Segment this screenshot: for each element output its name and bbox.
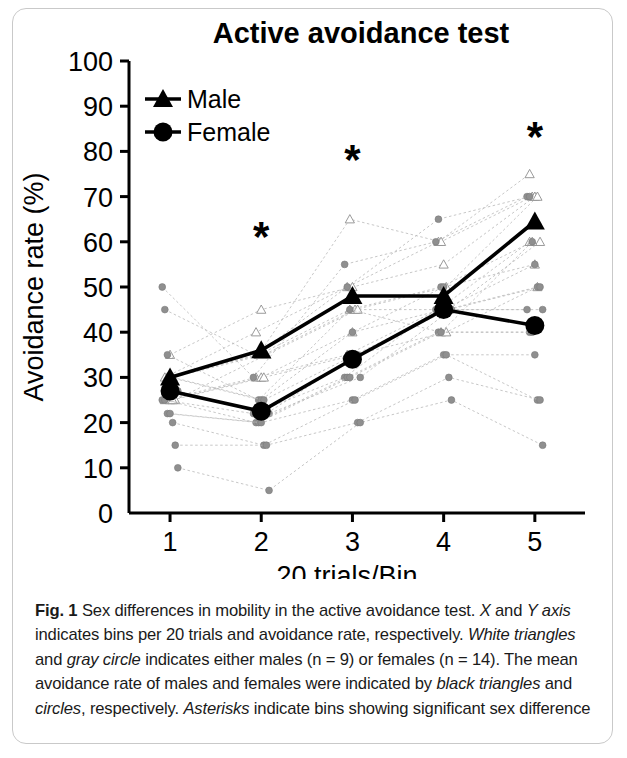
caption-text: , respectively. (81, 699, 183, 718)
x-axis-tick-label: 4 (436, 527, 451, 557)
individual-point-female (263, 442, 270, 449)
individual-point-male (535, 237, 544, 245)
y-axis-tick-label: 0 (98, 499, 113, 529)
individual-point-male (251, 328, 260, 336)
significance-asterisk-bin2: * (253, 213, 270, 260)
chart-title: Active avoidance test (213, 17, 510, 49)
mean-marker-female (525, 316, 544, 335)
legend-label-male: Male (187, 85, 241, 113)
individual-point-female (266, 487, 273, 494)
caption-emphasis: gray circle (67, 650, 141, 669)
y-axis-tick-label: 30 (83, 363, 113, 393)
figure-card: Active avoidance test0102030405060708090… (12, 8, 613, 744)
caption-emphasis: White triangles (468, 625, 576, 644)
individual-point-female (346, 306, 353, 313)
y-axis-tick-label: 60 (83, 228, 113, 258)
x-axis-label: 20 trials/Bin (276, 561, 417, 579)
chart-area: Active avoidance test0102030405060708090… (13, 9, 614, 579)
x-axis-tick-label: 5 (527, 527, 542, 557)
y-axis-tick-label: 100 (68, 47, 113, 77)
caption-text: Sex differences in mobility in the activ… (77, 601, 479, 620)
individual-point-female (250, 374, 257, 381)
individual-point-female (349, 329, 356, 336)
significance-asterisk-bin5: * (527, 113, 544, 160)
individual-point-female (172, 442, 179, 449)
individual-point-female (531, 351, 538, 358)
x-axis-tick-label: 2 (254, 527, 269, 557)
individual-point-female (448, 397, 455, 404)
legend-label-female: Female (187, 118, 270, 146)
x-axis-tick-label: 3 (345, 527, 360, 557)
significance-asterisk-bin3: * (344, 136, 361, 183)
individual-point-female (524, 306, 531, 313)
individual-point-male (525, 169, 534, 177)
caption-emphasis: circles (35, 699, 81, 718)
y-axis-tick-label: 10 (83, 454, 113, 484)
caption-emphasis: black triangles (436, 674, 540, 693)
individual-point-female (539, 442, 546, 449)
y-axis-tick-label: 90 (83, 92, 113, 122)
mean-series-layer (160, 211, 545, 420)
individual-point-female (167, 410, 174, 417)
individual-point-female (357, 419, 364, 426)
individual-point-female (159, 284, 166, 291)
individual-point-female (352, 397, 359, 404)
figure-caption: Fig. 1 Sex differences in mobility in th… (35, 599, 595, 721)
caption-figure-label: Fig. 1 (35, 601, 77, 620)
individual-point-female (161, 306, 168, 313)
caption-text: indicate bins showing significant sex di… (249, 699, 590, 718)
individual-point-female (174, 464, 181, 471)
y-axis-tick-label: 80 (83, 137, 113, 167)
mean-marker-female (434, 300, 453, 319)
caption-text: and (491, 601, 527, 620)
mean-marker-female (252, 402, 271, 421)
individual-point-female (169, 419, 176, 426)
individual-point-male (439, 260, 448, 268)
individual-point-male (345, 215, 354, 223)
y-axis-tick-label: 70 (83, 183, 113, 213)
individual-point-female (438, 329, 445, 336)
legend-marker-female (154, 123, 173, 142)
annotations-layer: *** (253, 113, 544, 259)
y-axis-tick-label: 50 (83, 273, 113, 303)
y-axis-label: Avoidance rate (%) (19, 172, 49, 401)
caption-text: indicates bins per 20 trials and avoidan… (35, 625, 468, 644)
individual-point-female (346, 374, 353, 381)
mean-marker-male (525, 211, 545, 229)
y-axis-tick-label: 40 (83, 318, 113, 348)
mean-marker-male (251, 340, 271, 358)
caption-emphasis: Asterisks (183, 699, 249, 718)
individual-data-layer (159, 169, 546, 493)
individual-point-female (435, 216, 442, 223)
individual-trace-male (165, 174, 530, 377)
individual-point-female (432, 238, 439, 245)
individual-point-female (537, 397, 544, 404)
caption-text: and (540, 674, 572, 693)
individual-point-female (526, 193, 533, 200)
individual-point-female (443, 351, 450, 358)
mean-marker-female (343, 350, 362, 369)
individual-point-female (357, 374, 364, 381)
individual-trace-female (175, 377, 540, 445)
y-axis-tick-label: 20 (83, 409, 113, 439)
caption-emphasis: X (480, 601, 491, 620)
chart-legend: MaleFemale (145, 85, 270, 146)
individual-point-female (529, 238, 536, 245)
individual-point-female (164, 351, 171, 358)
caption-text: and (35, 650, 67, 669)
individual-point-female (531, 261, 538, 268)
individual-point-female (344, 284, 351, 291)
individual-point-female (445, 374, 452, 381)
individual-point-female (341, 261, 348, 268)
active-avoidance-chart: Active avoidance test0102030405060708090… (13, 9, 614, 579)
caption-emphasis: Y axis (527, 601, 571, 620)
individual-point-female (539, 306, 546, 313)
mean-marker-female (161, 381, 180, 400)
individual-point-female (537, 284, 544, 291)
x-axis-tick-label: 1 (163, 527, 178, 557)
